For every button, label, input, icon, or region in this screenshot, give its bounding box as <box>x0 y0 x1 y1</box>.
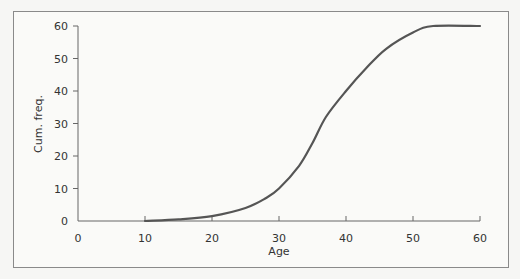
y-tick-label: 50 <box>54 53 68 66</box>
y-tick-label: 20 <box>54 150 68 163</box>
x-axis: 0102030405060 <box>75 216 488 245</box>
y-tick-label: 10 <box>54 183 68 196</box>
x-tick-label: 20 <box>205 232 219 245</box>
x-tick-label: 50 <box>406 232 420 245</box>
y-tick-label: 30 <box>54 118 68 131</box>
x-tick-label: 10 <box>138 232 152 245</box>
y-axis: 0102030405060 <box>54 20 78 228</box>
x-tick-label: 60 <box>473 232 487 245</box>
y-tick-label: 40 <box>54 85 68 98</box>
y-tick-label: 60 <box>54 20 68 33</box>
y-axis-title: Cum. freq. <box>32 95 45 153</box>
y-tick-label: 0 <box>61 215 68 228</box>
x-axis-title: Age <box>268 245 290 258</box>
x-tick-label: 40 <box>339 232 353 245</box>
x-tick-label: 30 <box>272 232 286 245</box>
cumulative-frequency-chart: 0102030405060 0102030405060 Age Cum. fre… <box>0 0 520 279</box>
cumulative-frequency-curve <box>145 26 480 221</box>
x-tick-label: 0 <box>75 232 82 245</box>
